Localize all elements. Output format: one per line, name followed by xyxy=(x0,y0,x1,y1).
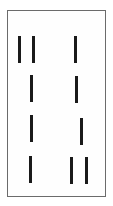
tally-mark xyxy=(29,156,32,183)
tally-row xyxy=(0,0,113,206)
tally-mark xyxy=(70,157,73,184)
figure-root xyxy=(0,0,113,206)
tally-mark xyxy=(85,157,88,184)
